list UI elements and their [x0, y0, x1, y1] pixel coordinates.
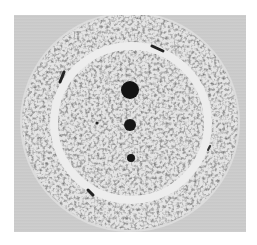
- specimen-photo: [14, 15, 246, 232]
- tiny-dot: [96, 122, 99, 125]
- specimen-graphic: [14, 15, 246, 232]
- medium-dot: [124, 119, 136, 131]
- small-dot: [127, 154, 135, 162]
- large-dot: [121, 81, 139, 99]
